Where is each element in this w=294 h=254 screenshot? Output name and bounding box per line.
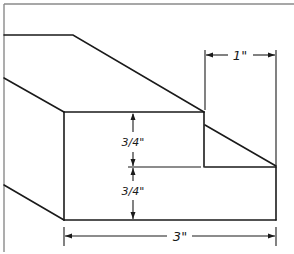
dimension-label-total-width: 3" [173,229,187,244]
dimension-total-width: 3" [64,227,276,246]
dimension-lower-height: 3/4" [122,168,145,219]
figure-frame [4,4,294,252]
dimension-label-upper-height: 3/4" [122,136,145,149]
rabbet-diagram: 1" 3/4" 3/4" 3" [0,0,294,254]
dimension-label-step-width: 1" [233,48,247,63]
dimension-label-lower-height: 3/4" [122,185,145,198]
dimension-upper-height: 3/4" [122,113,145,166]
dimension-step-width: 1" [205,48,276,166]
